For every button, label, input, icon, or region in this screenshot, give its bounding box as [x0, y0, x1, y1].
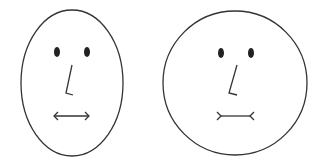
- left-eye: [54, 47, 60, 57]
- head-oval: [21, 10, 123, 156]
- left-eye: [218, 48, 224, 58]
- face-left: [21, 10, 123, 156]
- head-circle: [163, 11, 307, 155]
- right-eye: [248, 48, 254, 58]
- right-eye: [84, 47, 90, 57]
- face-right: [163, 11, 307, 155]
- figure: [0, 0, 321, 168]
